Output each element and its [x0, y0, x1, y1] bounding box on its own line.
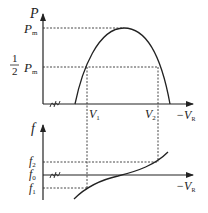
axis-break-mark-bottom: [50, 172, 60, 178]
f0-label: f0: [29, 167, 36, 182]
diagram: P Pm 1 2 Pm V1 V2 −VR f f2 f0 f1 −VR: [0, 0, 208, 213]
f1-label: f1: [29, 181, 36, 196]
bottom-neg-vr-label: −VR: [176, 179, 195, 193]
power-chart: P Pm 1 2 Pm V1 V2 −VR: [10, 6, 195, 188]
pm-label: Pm: [23, 21, 38, 37]
half-pm-label: 1 2 Pm: [10, 52, 38, 77]
v1-label: V1: [89, 107, 100, 122]
axis-break-mark-top: [50, 101, 60, 107]
svg-text:1: 1: [12, 52, 18, 64]
p-axis-label: P: [29, 6, 39, 21]
f-axis-label: f: [31, 121, 37, 136]
v2-label: V2: [145, 107, 156, 122]
power-curve: [75, 28, 170, 104]
svg-text:Pm: Pm: [23, 60, 38, 76]
top-neg-vr-label: −VR: [176, 108, 195, 122]
frequency-chart: f f2 f0 f1 −VR: [29, 121, 195, 200]
svg-text:2: 2: [12, 65, 18, 77]
